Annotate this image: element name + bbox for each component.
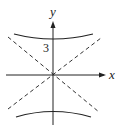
y-axis-label: y [48,4,56,19]
x-axis-arrow-icon [99,73,106,78]
y-axis-arrow-icon [51,21,56,28]
asymptote-positive-slope [8,38,101,109]
vertex-label: 3 [43,41,49,55]
hyperbola-diagram: x y 3 [0,0,121,128]
x-axis-label: x [108,67,115,82]
